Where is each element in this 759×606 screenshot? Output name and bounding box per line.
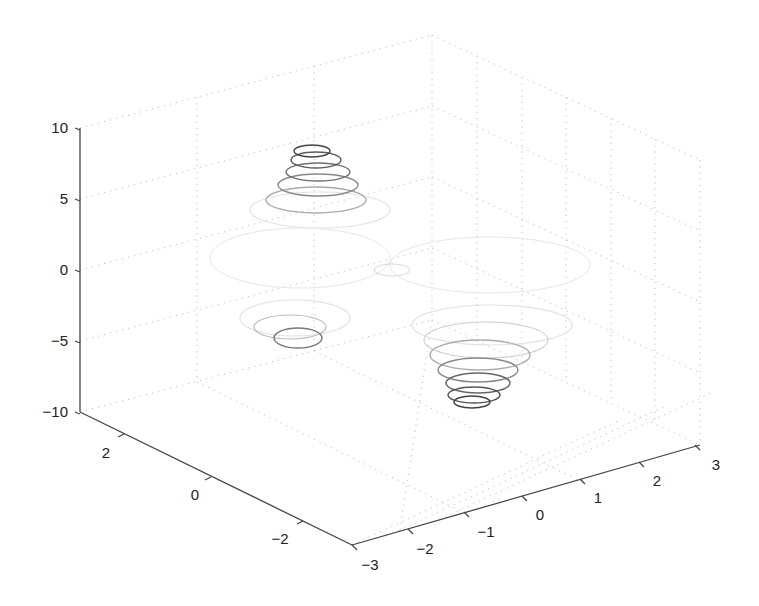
z-tick-label: −10 xyxy=(43,403,68,420)
x-tick-label: 1 xyxy=(594,489,602,506)
y-tick-label: 0 xyxy=(191,486,199,503)
z-tick-label: 5 xyxy=(60,190,68,207)
x-tick-label: 2 xyxy=(653,472,661,489)
x-tick-label: 0 xyxy=(536,506,544,523)
x-tick-label: −2 xyxy=(416,540,433,557)
z-tick-label: −5 xyxy=(51,332,68,349)
z-tick-label: 0 xyxy=(60,261,68,278)
x-tick-label: −3 xyxy=(361,556,378,573)
y-tick-labels: 2 0 −2 xyxy=(102,444,289,547)
x-tick-label: −1 xyxy=(477,523,494,540)
x-tick-labels: −3 −2 −1 0 1 2 3 xyxy=(361,456,720,573)
x-axis xyxy=(352,445,700,545)
y-axis xyxy=(80,412,352,545)
axes xyxy=(75,128,700,550)
contour3-figure: 10 5 0 −5 −10 2 0 −2 −3 −2 −1 0 1 2 3 xyxy=(0,0,759,606)
y-tick-label: −2 xyxy=(271,530,288,547)
z-tick-label: 10 xyxy=(51,119,68,136)
x-tick-label: 3 xyxy=(712,456,720,473)
z-tick-labels: 10 5 0 −5 −10 xyxy=(43,119,68,420)
grid xyxy=(80,35,713,562)
contours xyxy=(210,145,590,408)
y-tick-label: 2 xyxy=(102,444,110,461)
